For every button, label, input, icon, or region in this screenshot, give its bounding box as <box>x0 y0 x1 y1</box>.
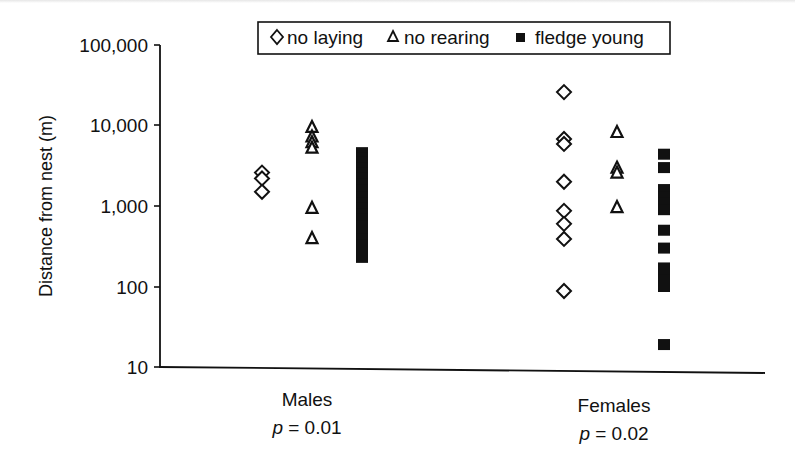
y-axis: 100,000 10,000 1,000 100 10 Distance fro… <box>36 35 160 378</box>
p-symbol: p <box>578 423 590 444</box>
x-axis-line <box>159 367 765 373</box>
tick-label-100000: 100,000 <box>79 35 148 56</box>
category-label-females: Females <box>578 395 651 416</box>
diamond-open-icon <box>557 217 571 231</box>
diamond-open-icon <box>557 284 571 298</box>
category-males: Males p = 0.01 <box>271 389 341 438</box>
category-females: Females p = 0.02 <box>578 395 651 444</box>
legend-item-fledge-young: fledge young <box>516 27 644 48</box>
triangle-open-icon <box>307 202 318 213</box>
category-label-males: Males <box>282 389 333 410</box>
triangle-open-icon <box>612 201 623 212</box>
legend-label: no rearing <box>404 27 490 48</box>
tick-label-100: 100 <box>116 277 148 298</box>
diamond-open-icon <box>557 175 571 189</box>
square-filled-icon <box>658 281 670 292</box>
scatter-chart: no laying no rearing fledge young 100,00… <box>0 0 795 466</box>
tick-label-10000: 10,000 <box>90 115 148 136</box>
square-filled-icon <box>516 33 525 42</box>
triangle-open-icon <box>307 232 318 243</box>
diamond-open-icon <box>557 232 571 246</box>
y-axis-title: Distance from nest (m) <box>36 115 56 297</box>
p-symbol: p <box>271 417 283 438</box>
p-value: = 0.02 <box>590 423 649 444</box>
legend-item-no-rearing: no rearing <box>388 27 490 48</box>
square-filled-icon <box>658 149 670 160</box>
square-filled-icon <box>658 204 670 215</box>
diamond-open-icon <box>255 185 269 199</box>
tick-label-10: 10 <box>127 357 148 378</box>
legend: no laying no rearing fledge young <box>258 22 670 54</box>
diamond-open-icon <box>557 85 571 99</box>
square-filled-icon <box>658 225 670 236</box>
triangle-open-icon <box>612 126 623 137</box>
data-markers <box>255 85 670 350</box>
p-value-males: p = 0.01 <box>271 417 341 438</box>
square-filled-icon <box>356 252 368 263</box>
square-filled-icon <box>658 243 670 254</box>
square-filled-icon <box>658 339 670 350</box>
tick-label-1000: 1,000 <box>100 196 148 217</box>
square-filled-icon <box>658 162 670 173</box>
legend-label: fledge young <box>535 27 644 48</box>
p-value-females: p = 0.02 <box>578 423 648 444</box>
p-value: = 0.01 <box>283 417 342 438</box>
legend-label: no laying <box>287 27 363 48</box>
